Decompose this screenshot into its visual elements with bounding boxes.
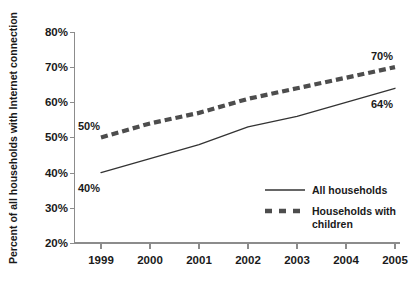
annotation-right-dashed: 70% [371, 50, 393, 62]
x-tick-label-2002: 2002 [235, 254, 261, 266]
annotation-left-solid: 40% [78, 182, 100, 194]
x-tick-label-2005: 2005 [382, 254, 408, 266]
x-tick-label-2000: 2000 [137, 254, 163, 266]
annotation-left-dashed: 50% [78, 120, 100, 132]
x-tick-label-2003: 2003 [284, 254, 310, 266]
y-tick-label-70: 70% [45, 61, 68, 73]
y-tick-label-20: 20% [45, 237, 68, 249]
legend-label-households-with-children-line2: children [312, 218, 353, 230]
legend: All households Households with children [265, 184, 396, 230]
y-axis-title: Percent of all households with Internet … [7, 12, 19, 264]
y-tick-label-60: 60% [45, 96, 68, 108]
line-chart: Percent of all households with Internet … [0, 0, 410, 284]
x-tick-label-2004: 2004 [333, 254, 359, 266]
x-tick-label-2001: 2001 [186, 254, 212, 266]
chart-container: Percent of all households with Internet … [0, 0, 410, 284]
y-tick-label-30: 30% [45, 202, 68, 214]
y-tick-label-50: 50% [45, 131, 68, 143]
x-tick-label-1999: 1999 [88, 254, 114, 266]
legend-label-all-households: All households [312, 184, 387, 196]
y-tick-label-80: 80% [45, 26, 68, 38]
y-tick-label-40: 40% [45, 167, 68, 179]
series-line-all-households [101, 88, 395, 172]
annotation-right-solid: 64% [371, 98, 393, 110]
legend-label-households-with-children-line1: Households with [312, 205, 396, 217]
